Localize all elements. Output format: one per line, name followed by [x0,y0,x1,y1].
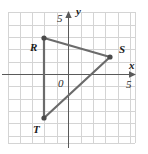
vertex-label-r: R [30,42,37,53]
vertex-point-s [107,54,112,59]
y-axis-label: y [76,6,81,17]
vertex-label-s: S [119,44,125,55]
grid-lines [8,12,135,143]
vertex-label-t: T [33,124,40,135]
coordinate-grid-svg [0,0,148,154]
y-axis-tick-label-5: 5 [57,13,63,24]
coordinate-plane-figure: y x 5 5 0 R S T [0,0,148,154]
origin-label: 0 [58,78,64,89]
vertex-point-t [41,115,46,120]
axis-lines [2,17,131,148]
x-axis-label: x [129,60,135,71]
vertex-point-r [41,35,46,40]
x-axis-tick-label-5: 5 [126,79,132,90]
